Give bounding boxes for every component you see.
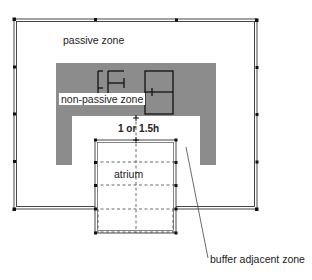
passive-zone-label: passive zone (63, 34, 124, 46)
buffer-adjacent-zone-label: buffer adjacent zone (210, 253, 305, 265)
non-passive-zone-label: non-passive zone (59, 93, 145, 105)
building-plan-diagram (0, 0, 312, 280)
atrium-label: atrium (114, 168, 143, 180)
dimension-label: 1 or 1.5h (118, 123, 159, 134)
